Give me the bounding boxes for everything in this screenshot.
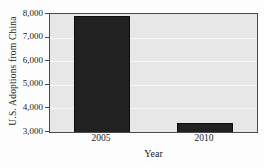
y-tick-label: 7,000	[0, 31, 43, 42]
x-axis-title: Year	[49, 148, 258, 159]
y-tick-label: 6,000	[0, 55, 43, 66]
y-tick-mark	[45, 84, 49, 85]
y-tick-mark	[45, 13, 49, 14]
y-tick-label: 3,000	[0, 126, 43, 137]
bar-chart-us-adoptions-from-china: U.S. Adoptions from China Year 3,0004,00…	[0, 0, 264, 167]
bar-2005	[74, 16, 130, 132]
y-tick-label: 8,000	[0, 8, 43, 19]
x-tick-label-2010: 2010	[174, 133, 234, 143]
x-tick-label-2005: 2005	[71, 133, 131, 143]
y-axis-title: U.S. Adoptions from China	[8, 11, 18, 131]
y-tick-label: 4,000	[0, 102, 43, 113]
plot-area	[49, 13, 258, 133]
y-tick-mark	[45, 131, 49, 132]
y-tick-label: 5,000	[0, 78, 43, 89]
y-tick-mark	[45, 107, 49, 108]
y-tick-mark	[45, 37, 49, 38]
y-tick-mark	[45, 60, 49, 61]
bar-2010	[177, 123, 233, 132]
